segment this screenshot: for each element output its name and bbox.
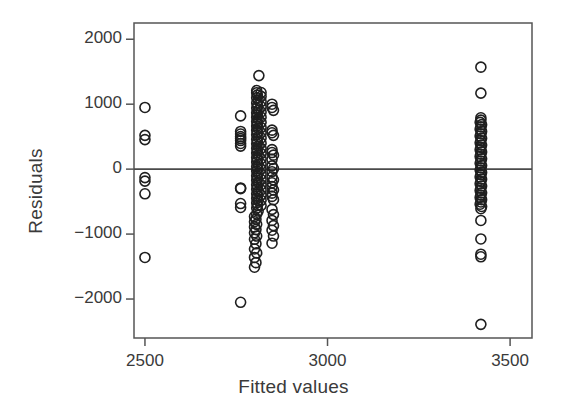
- plot-border: [134, 23, 532, 338]
- x-tick-label: 3500: [460, 351, 560, 371]
- plot-frame: [134, 23, 532, 338]
- y-tick-label: 2000: [10, 28, 122, 48]
- residual-plot-figure: Residuals Fitted values 200010000−1000−2…: [0, 0, 587, 417]
- y-tick-label: 1000: [10, 93, 122, 113]
- y-tick-label: −1000: [10, 223, 122, 243]
- x-axis-ticks: [145, 338, 510, 346]
- y-axis-ticks: [126, 39, 134, 299]
- y-tick-label: −2000: [10, 288, 122, 308]
- data-points: [140, 62, 487, 329]
- y-tick-label: 0: [10, 158, 122, 178]
- x-axis-title: Fitted values: [0, 376, 587, 398]
- y-axis-title: Residuals: [25, 91, 47, 291]
- x-tick-label: 2500: [95, 351, 195, 371]
- x-tick-label: 3000: [278, 351, 378, 371]
